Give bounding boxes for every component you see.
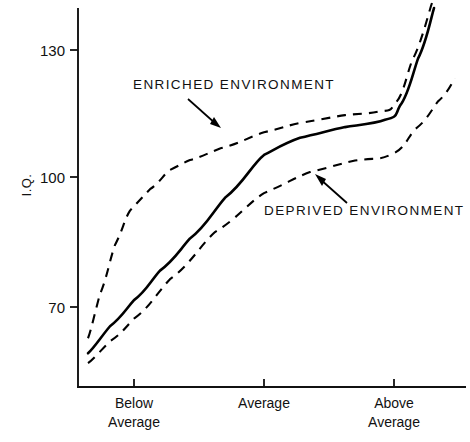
deprived-environment-label: DEPRIVED ENVIRONMENT	[264, 203, 465, 218]
y-tick-label-130: 130	[40, 42, 65, 59]
x-tick-label-below-average-line1: Below	[115, 395, 154, 411]
y-tick-label-70: 70	[48, 299, 65, 316]
y-tick-group: 130 100 70	[40, 42, 78, 316]
x-tick-label-above-average-line2: Average	[368, 414, 420, 430]
enriched-environment-label: ENRICHED ENVIRONMENT	[133, 77, 335, 92]
deprived-environment-arrow	[315, 174, 347, 203]
enriched-environment-arrow	[188, 99, 221, 128]
iq-environment-chart: 130 100 70 I.Q. Below Average Average Ab…	[0, 0, 470, 442]
y-axis-title: I.Q.	[19, 174, 34, 197]
x-tick-label-above-average-line1: Above	[374, 395, 414, 411]
series-line-deprived-environment	[88, 78, 455, 363]
x-tick-label-average: Average	[238, 395, 290, 411]
x-tick-label-below-average-line2: Average	[108, 414, 160, 430]
chart-canvas: 130 100 70 I.Q. Below Average Average Ab…	[0, 0, 470, 442]
series-line-mean	[88, 8, 434, 353]
axis-group	[77, 8, 466, 387]
y-tick-label-100: 100	[40, 169, 65, 186]
series-group	[88, 3, 455, 363]
series-line-enriched-environment	[88, 3, 432, 338]
annotation-group: ENRICHED ENVIRONMENT DEPRIVED ENVIRONMEN…	[133, 77, 465, 218]
